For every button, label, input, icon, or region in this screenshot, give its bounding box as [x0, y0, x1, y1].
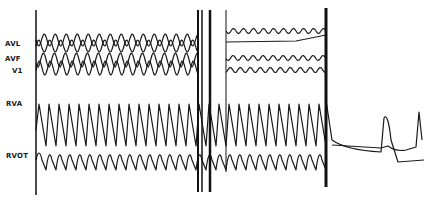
ecg-traces: [0, 0, 430, 208]
ecg-figure: AVL AVF V1 RVA RVOT: [0, 0, 430, 208]
trace-tail-2: [332, 112, 422, 151]
trace-avl-post: [226, 29, 326, 34]
trace-v1-post-2: [226, 68, 326, 73]
trace-tail-1: [326, 100, 424, 162]
trace-avf-post: [226, 35, 326, 42]
trace-rva: [36, 104, 326, 146]
trace-rvot: [36, 153, 326, 170]
trace-v1-post: [226, 56, 326, 61]
